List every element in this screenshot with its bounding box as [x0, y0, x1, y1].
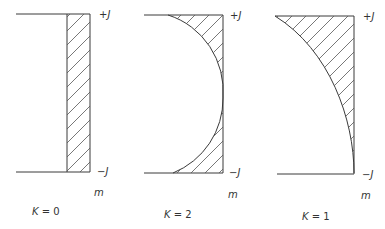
top-label: +J: [99, 9, 110, 20]
panel-k1: +J −J m K = 1: [270, 10, 374, 222]
m-axis-label: m: [228, 189, 238, 200]
top-label: +J: [363, 11, 374, 22]
m-axis-label: m: [94, 187, 104, 198]
diagram-canvas: +J −J m K = 0 +J −J m K = 2 +J −J m K = …: [0, 0, 385, 229]
bottom-label: −J: [362, 169, 373, 180]
bottom-label: −J: [229, 167, 240, 178]
hatched-region: [140, 10, 230, 180]
hatched-region: [67, 14, 90, 172]
top-label: +J: [230, 10, 241, 21]
caption: K = 0: [32, 206, 60, 217]
hatched-region: [270, 10, 360, 180]
m-axis-label: m: [361, 190, 371, 201]
caption: K = 1: [302, 211, 330, 222]
panel-k0: +J −J m K = 0: [16, 9, 110, 217]
caption: K = 2: [164, 209, 192, 220]
bottom-label: −J: [97, 166, 108, 177]
panel-k2: +J −J m K = 2: [140, 10, 241, 220]
